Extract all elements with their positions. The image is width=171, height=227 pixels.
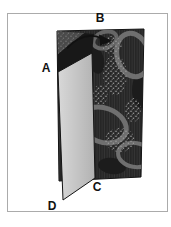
fold-diagram-canvas: [0, 0, 171, 227]
label-d: D: [48, 200, 57, 212]
label-c: C: [93, 181, 102, 193]
label-b: B: [96, 12, 105, 24]
folded-flap: [58, 53, 95, 200]
label-a: A: [42, 62, 51, 74]
fold-diagram: B A C D: [0, 0, 171, 227]
